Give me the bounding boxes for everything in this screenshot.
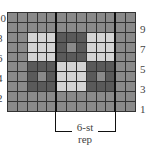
- chart-cell: [116, 92, 125, 101]
- chart-cell: [38, 82, 47, 91]
- row-label-3: 3: [140, 84, 146, 95]
- chart-cell: [18, 23, 27, 32]
- chart-cell: [38, 53, 47, 62]
- chart-cell: [97, 33, 106, 42]
- chart-cell: [116, 102, 125, 111]
- chart-cell: [28, 102, 37, 111]
- chart-cell: [57, 62, 66, 71]
- chart-cell: [116, 13, 125, 22]
- chart-cell: [8, 102, 17, 111]
- chart-cell: [57, 102, 66, 111]
- chart-cell: [87, 62, 96, 71]
- chart-cell: [87, 102, 96, 111]
- chart-cell: [18, 102, 27, 111]
- chart-cell: [28, 82, 37, 91]
- chart-cell: [116, 72, 125, 81]
- chart-cell: [38, 23, 47, 32]
- row-label-8: 8: [0, 33, 3, 44]
- chart-cell: [97, 53, 106, 62]
- chart-cell: [116, 33, 125, 42]
- chart-cell: [67, 72, 76, 81]
- chart-cell: [126, 72, 135, 81]
- chart-cell: [38, 72, 47, 81]
- chart-cell: [18, 13, 27, 22]
- chart-cell: [8, 43, 17, 52]
- chart-cell: [97, 43, 106, 52]
- chart-cell: [57, 13, 66, 22]
- chart-cell: [97, 82, 106, 91]
- chart-cell: [87, 72, 96, 81]
- chart-cell: [116, 23, 125, 32]
- chart-cell: [126, 53, 135, 62]
- knitting-chart-grid: [7, 12, 136, 112]
- chart-cell: [28, 23, 37, 32]
- repeat-label-line2: rep: [72, 133, 98, 145]
- chart-cell: [77, 33, 86, 42]
- chart-cell: [38, 92, 47, 101]
- chart-cell: [87, 33, 96, 42]
- chart-cell: [18, 43, 27, 52]
- chart-cell: [57, 23, 66, 32]
- chart-cell: [77, 23, 86, 32]
- row-label-9: 9: [140, 24, 146, 35]
- chart-cell: [38, 62, 47, 71]
- chart-cell: [38, 33, 47, 42]
- chart-cell: [38, 43, 47, 52]
- chart-cell: [116, 43, 125, 52]
- chart-cell: [57, 92, 66, 101]
- chart-cell: [77, 13, 86, 22]
- repeat-line-right: [114, 12, 116, 112]
- chart-cell: [18, 92, 27, 101]
- chart-cell: [77, 43, 86, 52]
- chart-cell: [126, 82, 135, 91]
- chart-cell: [18, 62, 27, 71]
- chart-cell: [8, 53, 17, 62]
- chart-cell: [57, 82, 66, 91]
- chart-cell: [77, 53, 86, 62]
- chart-cell: [67, 102, 76, 111]
- chart-cell: [97, 72, 106, 81]
- chart-cell: [57, 72, 66, 81]
- row-label-1: 1: [140, 104, 146, 115]
- chart-cell: [28, 43, 37, 52]
- row-label-4: 4: [0, 73, 3, 84]
- chart-cell: [18, 72, 27, 81]
- chart-cell: [77, 92, 86, 101]
- row-label-6: 6: [0, 53, 3, 64]
- chart-cell: [18, 53, 27, 62]
- chart-cell: [87, 82, 96, 91]
- chart-cell: [97, 13, 106, 22]
- chart-cell: [8, 13, 17, 22]
- chart-cell: [97, 23, 106, 32]
- chart-cell: [97, 62, 106, 71]
- chart-cell: [8, 23, 17, 32]
- chart-cell: [8, 72, 17, 81]
- row-label-5: 5: [140, 64, 146, 75]
- chart-cell: [28, 62, 37, 71]
- chart-cell: [28, 13, 37, 22]
- chart-cell: [126, 23, 135, 32]
- chart-cell: [126, 43, 135, 52]
- chart-cell: [87, 43, 96, 52]
- chart-cell: [67, 23, 76, 32]
- chart-cell: [126, 62, 135, 71]
- chart-cell: [8, 62, 17, 71]
- chart-cell: [57, 53, 66, 62]
- chart-cell: [126, 13, 135, 22]
- repeat-label: 6-st rep: [72, 121, 98, 145]
- chart-cell: [77, 102, 86, 111]
- chart-cell: [116, 82, 125, 91]
- chart-cell: [57, 33, 66, 42]
- chart-cell: [18, 82, 27, 91]
- chart-cell: [18, 33, 27, 42]
- chart-cell: [126, 102, 135, 111]
- chart-cell: [67, 53, 76, 62]
- chart-cell: [77, 72, 86, 81]
- repeat-label-line1: 6-st: [72, 121, 98, 133]
- chart-cell: [77, 82, 86, 91]
- chart-cell: [87, 13, 96, 22]
- chart-cell: [67, 92, 76, 101]
- chart-cell: [28, 72, 37, 81]
- row-label-2: 2: [0, 93, 3, 104]
- chart-cell: [97, 102, 106, 111]
